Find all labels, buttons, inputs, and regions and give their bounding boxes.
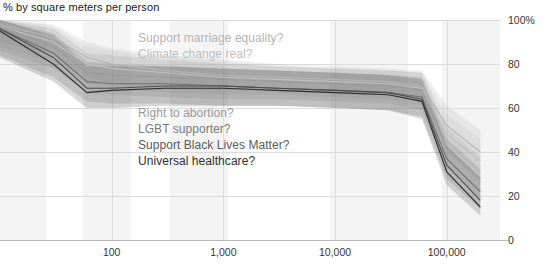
y-axis-tick-label: 100% [508,14,535,26]
chart-root: % by square meters per person 0204060801… [0,0,553,276]
y-axis-tick-label: 80 [508,58,520,70]
x-axis-line [0,240,508,241]
chart-title: % by square meters per person [3,1,159,13]
series-annotation-label: Right to abortion? [138,106,234,120]
series-annotation-label: LGBT supporter? [138,122,231,136]
series-annotation-label: Climate change real? [138,47,252,61]
series-annotation-label: Support Black Lives Matter? [138,138,289,152]
x-axis-tick-label: 100,000 [428,246,466,258]
x-axis-tick-label: 100 [103,246,121,258]
y-axis-tick-label: 60 [508,102,520,114]
y-axis-tick-label: 20 [508,190,520,202]
series-annotation-label: Support marriage equality? [138,31,283,45]
y-axis-tick-label: 0 [508,234,514,246]
x-axis-tick-label: 10,000 [319,246,351,258]
series-annotation-label: Universal healthcare? [138,154,255,168]
x-axis-tick-label: 1,000 [210,246,236,258]
y-axis-tick-label: 40 [508,146,520,158]
